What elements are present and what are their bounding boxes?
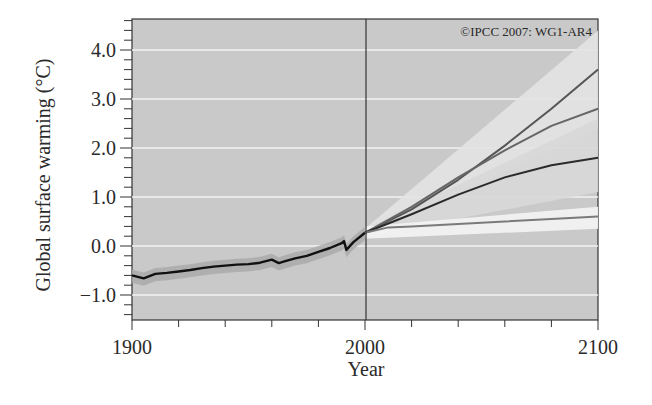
y-tick-label: 4.0 [91, 39, 116, 61]
y-tick-label: 1.0 [91, 186, 116, 208]
x-tick-label: 2100 [578, 336, 618, 358]
credit-text: ©IPCC 2007: WG1-AR4 [460, 24, 592, 39]
y-tick-label: −1.0 [80, 284, 116, 306]
y-axis-title: Global surface warming (°C) [32, 59, 55, 292]
warming-chart: −1.00.01.02.03.04.0 190020002100 ©IPCC 2… [0, 0, 652, 405]
y-axis: −1.00.01.02.03.04.0 [80, 21, 132, 315]
y-tick-label: 3.0 [91, 88, 116, 110]
x-tick-label: 1900 [112, 336, 152, 358]
x-axis: 190020002100 [112, 320, 618, 358]
x-tick-label: 2000 [345, 336, 385, 358]
x-axis-title: Year [348, 358, 385, 380]
y-tick-label: 2.0 [91, 137, 116, 159]
y-tick-label: 0.0 [91, 235, 116, 257]
